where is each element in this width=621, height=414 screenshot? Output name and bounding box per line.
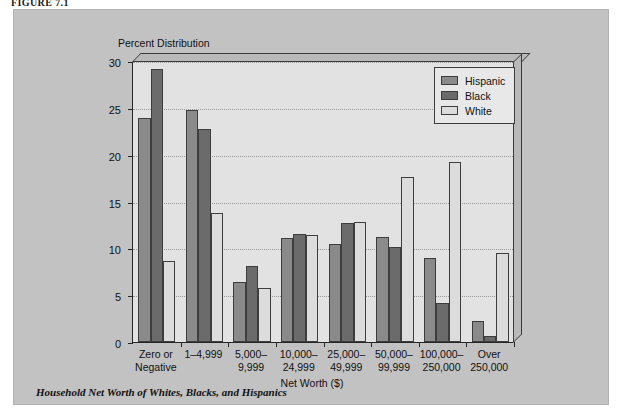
- y-axis-tick-label: 0: [115, 338, 121, 350]
- y-axis-tick: 20: [128, 156, 133, 157]
- bar: [186, 110, 198, 342]
- y-axis-tick: 15: [128, 203, 133, 204]
- bar: [354, 222, 366, 342]
- x-axis-tick: [228, 342, 229, 347]
- bar: [138, 118, 150, 342]
- figure-caption: Household Net Worth of Whites, Blacks, a…: [36, 386, 287, 398]
- bar: [424, 258, 436, 342]
- legend-item: Hispanic: [441, 73, 505, 88]
- y-axis-tick: 10: [128, 249, 133, 250]
- bar: [472, 321, 484, 342]
- bar: [246, 266, 258, 342]
- bar: [211, 213, 223, 342]
- x-axis-tick: [514, 342, 515, 347]
- bar: [449, 162, 461, 342]
- y-axis-tick: 25: [128, 109, 133, 110]
- legend-label: White: [465, 105, 492, 117]
- x-axis-tick: [371, 342, 372, 347]
- legend-swatch: [441, 76, 458, 85]
- bar: [293, 234, 305, 342]
- legend-item: Black: [441, 88, 505, 103]
- bar: [496, 253, 508, 342]
- x-axis-category-label: Over 250,000: [455, 348, 523, 373]
- plot-top-face: [132, 53, 531, 62]
- legend-swatch: [441, 106, 458, 115]
- figure-page: FIGURE 7.1 Percent Distribution 05101520…: [0, 0, 621, 414]
- bar: [376, 237, 388, 342]
- legend-item: White: [441, 103, 505, 118]
- y-axis-tick-label: 25: [109, 104, 121, 116]
- y-axis-tick: 30: [128, 62, 133, 63]
- bar: [151, 69, 163, 343]
- y-axis-tick-label: 20: [109, 151, 121, 163]
- y-axis-tick: 0: [128, 343, 133, 344]
- x-axis-tick: [324, 342, 325, 347]
- bar: [163, 261, 175, 342]
- y-axis-tick-label: 10: [109, 244, 121, 256]
- x-axis-tick: [181, 342, 182, 347]
- figure-number-label: FIGURE 7.1: [11, 0, 69, 8]
- bar: [389, 247, 401, 342]
- chart-legend: HispanicBlackWhite: [434, 67, 515, 124]
- bar: [436, 303, 448, 342]
- x-axis-tick: [276, 342, 277, 347]
- bar: [198, 129, 210, 342]
- bar: [329, 244, 341, 342]
- legend-label: Hispanic: [465, 75, 505, 87]
- bar: [258, 288, 270, 342]
- gridline: [133, 62, 513, 63]
- y-axis-tick-label: 5: [115, 291, 121, 303]
- bar: [306, 235, 318, 342]
- y-axis-title: Percent Distribution: [118, 37, 210, 49]
- x-axis-tick: [419, 342, 420, 347]
- y-axis-tick-label: 30: [109, 57, 121, 69]
- figure-panel: Percent Distribution 051015202530 Zero o…: [13, 9, 609, 405]
- legend-label: Black: [465, 90, 491, 102]
- bar: [401, 177, 413, 342]
- bar: [233, 282, 245, 342]
- y-axis-tick-label: 15: [109, 198, 121, 210]
- bar: [341, 223, 353, 342]
- y-axis-tick: 5: [128, 296, 133, 297]
- legend-swatch: [441, 91, 458, 100]
- x-axis-tick: [466, 342, 467, 347]
- bar: [484, 336, 496, 342]
- bar: [281, 238, 293, 342]
